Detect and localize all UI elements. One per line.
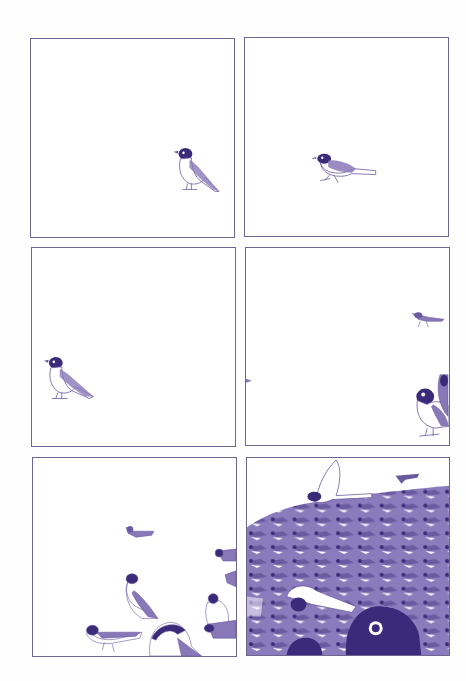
panel-6 bbox=[246, 457, 450, 656]
panel-2 bbox=[244, 37, 449, 237]
panel-5 bbox=[32, 457, 237, 657]
comic-page bbox=[0, 0, 466, 681]
birds-arriving-icon bbox=[246, 248, 449, 445]
panel-1 bbox=[30, 38, 235, 238]
bird-standing-icon bbox=[32, 248, 235, 446]
bird-standing-icon bbox=[31, 39, 234, 237]
panel-3 bbox=[31, 247, 236, 447]
bird-hopping-icon bbox=[245, 38, 448, 236]
huge-flock-icon bbox=[247, 458, 449, 655]
birds-gathering-icon bbox=[33, 458, 236, 656]
panel-4 bbox=[245, 247, 450, 446]
